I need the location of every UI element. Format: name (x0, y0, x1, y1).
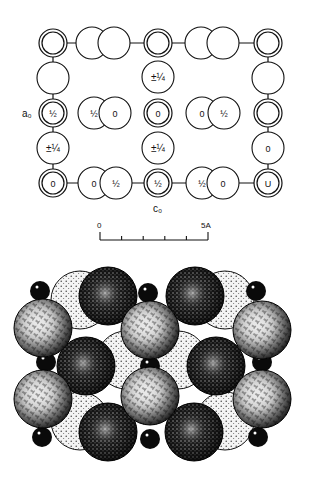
anion-atom-site: ±¼ (142, 132, 174, 164)
axis-label-c: c₀ (153, 203, 162, 214)
height-label: 0 (50, 179, 55, 189)
metal-atom-site: ½ (39, 99, 67, 127)
small-black-atom (246, 281, 266, 301)
axis-label-a: a₀ (22, 108, 32, 119)
scale-bar-start-label: 0 (97, 221, 102, 230)
height-label: ½ (154, 179, 162, 189)
metal-atom-site: ½ (144, 169, 172, 197)
shading (121, 301, 179, 359)
anion-atom-site: 0 (99, 97, 131, 129)
anion-atom-site: 0 (207, 167, 239, 199)
height-label: 0 (112, 109, 117, 119)
highlight (38, 432, 41, 435)
shading (14, 299, 72, 357)
height-label: ±¼ (151, 72, 165, 83)
height-label: ±¼ (151, 143, 165, 154)
scale-bar (100, 232, 208, 240)
anion-atom-site (98, 27, 130, 59)
metal-atom-site: U (254, 169, 282, 197)
anion-atom-site: ½ (100, 167, 132, 199)
small-black-atom (140, 429, 160, 449)
highlight (36, 286, 39, 289)
anion-atom-site (252, 62, 284, 94)
metal-atom-site (39, 29, 67, 57)
highlight (254, 432, 257, 435)
metal-atom-site (254, 99, 282, 127)
highlight (252, 286, 255, 289)
shading (14, 370, 72, 428)
anion-atom-site (207, 27, 239, 59)
shading (233, 370, 291, 428)
schematic-atoms: ±¼½½000½±¼±¼000½½½0U (37, 27, 284, 199)
anion-atom-site: ½ (208, 97, 240, 129)
anion-atom-site: ±¼ (142, 61, 174, 93)
height-label: 0 (91, 179, 96, 189)
anion-atom-site: 0 (252, 132, 284, 164)
metal-atom-site: 0 (39, 169, 67, 197)
shading (121, 367, 179, 425)
anion-atom-site: ±¼ (37, 132, 69, 164)
height-label: ½ (198, 179, 206, 189)
height-label: 0 (199, 109, 204, 119)
small-black-atom (248, 427, 268, 447)
small-black-atom (32, 427, 52, 447)
height-label: 0 (155, 109, 160, 119)
metal-atom-site: 0 (144, 99, 172, 127)
height-label: 0 (220, 179, 225, 189)
small-black-atom (138, 283, 158, 303)
highlight (146, 434, 149, 437)
crystal-structure-figure: ±¼½½000½±¼±¼000½½½0U a₀ c₀ 0 5A (0, 0, 311, 492)
small-black-atom (30, 281, 50, 301)
anion-atom-site (37, 62, 69, 94)
height-label: U (265, 179, 272, 189)
highlight (144, 288, 147, 291)
height-label: ½ (220, 109, 228, 119)
highlight (146, 361, 149, 364)
metal-atom-site (254, 29, 282, 57)
height-label: ½ (90, 109, 98, 119)
height-label: ½ (49, 109, 57, 119)
height-label: ½ (112, 179, 120, 189)
height-label: ±¼ (46, 143, 60, 154)
scale-bar-end-label: 5A (201, 221, 211, 230)
space-filling-model (14, 267, 291, 461)
metal-atom-site (144, 29, 172, 57)
shading (233, 301, 291, 359)
height-label: 0 (265, 144, 270, 154)
